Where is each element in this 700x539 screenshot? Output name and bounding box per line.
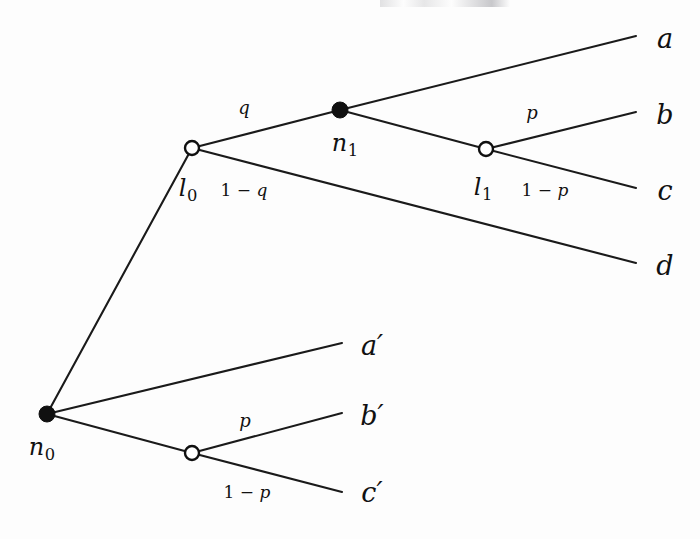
- prob-1-minus-p-upper: 1 − p: [522, 182, 569, 199]
- edge-l1-to-b: [486, 112, 636, 149]
- decision-tree-figure: n0l0n1l1abcda′b′c′q1 − qp1 − pp1 − p: [0, 0, 700, 539]
- edge-n0-to-aprime: [47, 343, 342, 414]
- terminal-label-b_prime: b′: [360, 402, 383, 429]
- node-label-n0: n0: [29, 435, 55, 463]
- node-label-l1: l1: [474, 175, 493, 203]
- node-n0[interactable]: [39, 406, 55, 422]
- prob-p-upper: p: [526, 104, 538, 122]
- node-chance_lower[interactable]: [185, 446, 199, 460]
- terminal-label-a_prime: a′: [361, 332, 383, 359]
- node-l1[interactable]: [479, 142, 493, 156]
- prob-1-minus-p-lower: 1 − p: [224, 484, 271, 501]
- node-l0[interactable]: [185, 141, 199, 155]
- prob-q: q: [238, 99, 250, 117]
- prob-p-lower: p: [239, 412, 251, 430]
- edge-l0-to-d: [192, 148, 636, 263]
- prob-1-minus-q: 1 − q: [221, 182, 268, 199]
- nodes-group: [39, 102, 493, 460]
- edge-n0-to-chance: [47, 414, 192, 453]
- edge-l0-to-n1: [192, 110, 340, 148]
- terminal-label-c_prime: c′: [361, 479, 382, 506]
- node-n1[interactable]: [332, 102, 348, 118]
- terminal-label-c: c: [657, 177, 672, 204]
- node-label-n1: n1: [332, 131, 358, 159]
- terminal-label-b: b: [656, 101, 673, 128]
- tree-edges-and-nodes: [0, 0, 700, 539]
- edge-chance-to-bprime: [192, 413, 342, 453]
- terminal-label-d: d: [656, 252, 673, 279]
- edge-n0-to-l0: [47, 148, 192, 414]
- edge-n1-to-l1: [340, 110, 486, 149]
- terminal-label-a: a: [657, 25, 673, 52]
- edge-n1-to-a: [340, 36, 636, 110]
- node-label-l0: l0: [179, 176, 198, 204]
